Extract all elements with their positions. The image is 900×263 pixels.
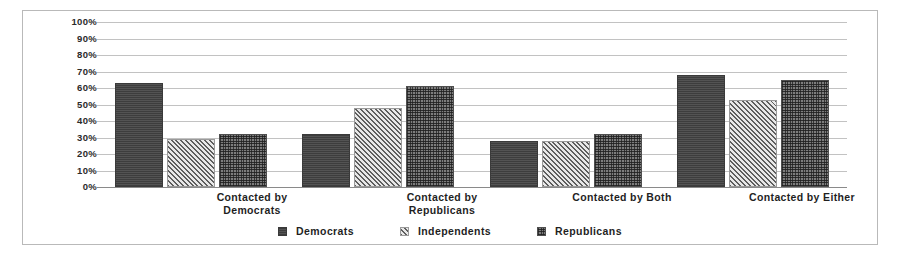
- bars-layer: [97, 22, 847, 187]
- bar-independents-contacted-by-either[interactable]: [729, 100, 777, 187]
- bar-independents-contacted-by-both[interactable]: [542, 141, 590, 187]
- y-tick-label: 20%: [53, 149, 97, 159]
- x-axis-label-line: Democrats: [157, 204, 347, 217]
- legend-item-democrats[interactable]: Democrats: [278, 225, 354, 237]
- gridline-0: [97, 187, 847, 188]
- legend-item-republicans[interactable]: Republicans: [537, 225, 622, 237]
- x-axis-label-line: Contacted by Either: [702, 191, 900, 204]
- y-tick-label: 40%: [53, 116, 97, 126]
- swatch-solid-dark-icon: [278, 227, 287, 236]
- bar-republicans-contacted-by-republicans[interactable]: [406, 86, 454, 187]
- plot-area: 100%90%80%70%60%50%40%30%20%10%0%: [63, 22, 853, 187]
- legend-label: Republicans: [555, 225, 622, 237]
- chart-frame: 100%90%80%70%60%50%40%30%20%10%0% Contac…: [22, 10, 878, 245]
- y-tick-label: 80%: [53, 50, 97, 60]
- legend-label: Independents: [418, 225, 491, 237]
- bar-republicans-contacted-by-both[interactable]: [594, 134, 642, 187]
- x-axis-label-2: Contacted by Both: [527, 191, 717, 204]
- bar-democrats-contacted-by-democrats[interactable]: [115, 83, 163, 187]
- legend-item-independents[interactable]: Independents: [400, 225, 491, 237]
- x-axis-label-line: Contacted by: [157, 191, 347, 204]
- bar-independents-contacted-by-democrats[interactable]: [167, 139, 215, 187]
- y-tick-label: 30%: [53, 133, 97, 143]
- bar-group: [472, 22, 660, 187]
- swatch-dotted-checker-icon: [537, 227, 546, 236]
- bar-republicans-contacted-by-either[interactable]: [781, 80, 829, 187]
- bar-democrats-contacted-by-both[interactable]: [490, 141, 538, 187]
- bar-republicans-contacted-by-democrats[interactable]: [219, 134, 267, 187]
- x-axis-label-line: Contacted by: [347, 191, 537, 204]
- y-tick-label: 70%: [53, 67, 97, 77]
- x-axis-label-line: Contacted by Both: [527, 191, 717, 204]
- y-tick-label: 90%: [53, 34, 97, 44]
- x-axis-label-3: Contacted by Either: [702, 191, 900, 204]
- y-tick-label: 0%: [53, 182, 97, 192]
- chart-legend: DemocratsIndependentsRepublicans: [23, 225, 877, 237]
- bar-group: [97, 22, 285, 187]
- x-axis-label-line: Republicans: [347, 204, 537, 217]
- x-axis-category-labels: Contacted byDemocratsContacted byRepubli…: [97, 191, 881, 221]
- y-tick-label: 50%: [53, 100, 97, 110]
- bar-democrats-contacted-by-republicans[interactable]: [302, 134, 350, 187]
- bar-democrats-contacted-by-either[interactable]: [677, 75, 725, 187]
- swatch-diagonal-hatch-icon: [400, 227, 409, 236]
- x-axis-label-1: Contacted byRepublicans: [347, 191, 537, 216]
- bar-group: [660, 22, 848, 187]
- bar-independents-contacted-by-republicans[interactable]: [354, 108, 402, 187]
- y-tick-label: 10%: [53, 166, 97, 176]
- x-axis-label-0: Contacted byDemocrats: [157, 191, 347, 216]
- bar-group: [285, 22, 473, 187]
- y-tick-label: 60%: [53, 83, 97, 93]
- y-axis-tick-labels: 100%90%80%70%60%50%40%30%20%10%0%: [45, 22, 97, 187]
- y-tick-label: 100%: [53, 17, 97, 27]
- legend-label: Democrats: [296, 225, 354, 237]
